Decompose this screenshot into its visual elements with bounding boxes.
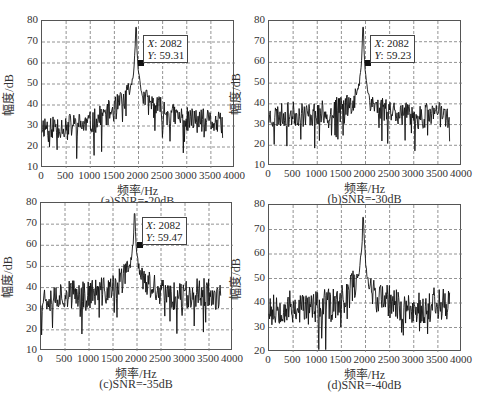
spectrum-line <box>269 27 450 151</box>
y-tick-label: 80 <box>15 196 37 207</box>
y-tick-label: 30 <box>16 119 38 130</box>
subplot-caption: (c)SNR=-35dB <box>40 377 232 392</box>
x-tick-label: 4000 <box>217 170 251 181</box>
plot-area <box>268 204 461 351</box>
y-tick-label: 30 <box>15 302 37 313</box>
y-tick-label: 40 <box>15 281 37 292</box>
y-tick-label: 50 <box>16 77 38 88</box>
spectrum-plot <box>41 203 233 351</box>
y-axis-label: 幅度/dB <box>0 70 17 120</box>
y-axis-label: 幅度/dB <box>226 254 244 304</box>
y-axis-label: 幅度/dB <box>226 69 244 119</box>
spectrum-plot <box>269 205 462 352</box>
y-tick-label: 80 <box>243 14 265 25</box>
plot-area <box>41 20 234 167</box>
y-tick-label: 80 <box>16 14 38 25</box>
y-tick-label: 20 <box>16 140 38 151</box>
spectrum-plot <box>42 21 235 168</box>
y-tick-label: 80 <box>243 198 265 209</box>
y-tick-label: 50 <box>15 259 37 270</box>
spectrum-line <box>269 217 450 349</box>
y-tick-label: 40 <box>243 296 265 307</box>
plot-area <box>268 20 461 165</box>
y-tick-label: 20 <box>243 138 265 149</box>
y-axis-label: 幅度/dB <box>0 252 16 302</box>
datatip-box: X: 2082Y: 59.31 <box>143 35 188 63</box>
spectrum-line <box>42 27 223 158</box>
y-tick-label: 60 <box>243 247 265 258</box>
y-tick-label: 70 <box>15 217 37 228</box>
y-tick-label: 40 <box>16 98 38 109</box>
y-tick-label: 70 <box>243 223 265 234</box>
y-tick-label: 30 <box>243 118 265 129</box>
y-tick-label: 60 <box>16 56 38 67</box>
y-tick-label: 40 <box>243 97 265 108</box>
plot-area <box>40 202 232 350</box>
y-tick-label: 50 <box>243 272 265 283</box>
x-tick-label: 4000 <box>444 168 478 179</box>
x-tick-label: 4000 <box>444 354 478 365</box>
y-tick-label: 60 <box>243 55 265 66</box>
y-tick-label: 70 <box>243 35 265 46</box>
y-tick-label: 20 <box>15 323 37 334</box>
y-tick-label: 50 <box>243 76 265 87</box>
y-tick-label: 30 <box>243 321 265 332</box>
y-tick-label: 70 <box>16 35 38 46</box>
datatip-box: X: 2082Y: 59.47 <box>142 217 187 245</box>
datatip-box: X: 2082Y: 59.23 <box>370 35 415 63</box>
spectrum-line <box>41 214 221 335</box>
spectrum-plot <box>269 21 462 166</box>
y-tick-label: 60 <box>15 238 37 249</box>
subplot-caption: (d)SNR=-40dB <box>268 378 461 393</box>
